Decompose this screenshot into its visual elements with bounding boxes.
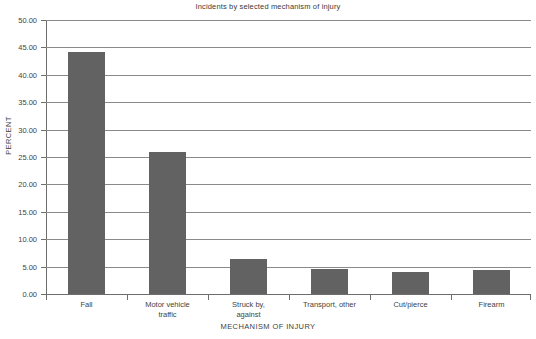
x-category-line: traffic xyxy=(127,310,208,320)
plot-area xyxy=(46,20,531,294)
y-axis-labels: 50.00 45.00 40.00 35.00 30.00 25.00 20.0… xyxy=(0,0,44,339)
x-category-line: Fall xyxy=(46,300,127,310)
x-axis-title: MECHANISM OF INJURY xyxy=(0,322,536,331)
gridline xyxy=(46,157,531,158)
bar-cut-pierce xyxy=(392,272,429,294)
bar-transport-other xyxy=(311,269,348,294)
x-category-label-fall: Fall xyxy=(46,300,127,310)
x-category-line: Firearm xyxy=(451,300,532,310)
y-tick-label: 0.00 xyxy=(0,290,37,299)
y-tick-label: 50.00 xyxy=(0,16,37,25)
chart-title: Incidents by selected mechanism of injur… xyxy=(0,2,536,11)
y-axis-title: PERCENT xyxy=(4,106,13,166)
bar-motor-vehicle-traffic xyxy=(149,152,186,294)
x-category-label-transport-other: Transport, other xyxy=(289,300,370,310)
y-tick-label: 5.00 xyxy=(0,263,37,272)
gridline xyxy=(46,20,531,21)
bar-firearm xyxy=(473,270,510,294)
gridline xyxy=(46,75,531,76)
y-tick-label: 40.00 xyxy=(0,71,37,80)
x-category-label-motor-vehicle-traffic: Motor vehicle traffic xyxy=(127,300,208,319)
x-category-line: against xyxy=(208,310,289,320)
x-category-label-struck-by-against: Struck by, against xyxy=(208,300,289,319)
x-category-line: Motor vehicle xyxy=(127,300,208,310)
gridline xyxy=(46,47,531,48)
gridline xyxy=(46,102,531,103)
chart-container: Incidents by selected mechanism of injur… xyxy=(0,0,536,339)
x-category-label-cut-pierce: Cut/pierce xyxy=(370,300,451,310)
gridline xyxy=(46,212,531,213)
y-tick-label: 15.00 xyxy=(0,208,37,217)
bar-struck-by-against xyxy=(230,259,267,294)
y-tick-label: 45.00 xyxy=(0,43,37,52)
gridline xyxy=(46,130,531,131)
x-category-line: Struck by, xyxy=(208,300,289,310)
gridline xyxy=(46,184,531,185)
bar-fall xyxy=(68,52,105,294)
y-tick-label: 20.00 xyxy=(0,180,37,189)
gridline xyxy=(46,239,531,240)
x-category-line: Cut/pierce xyxy=(370,300,451,310)
x-category-label-firearm: Firearm xyxy=(451,300,532,310)
gridline xyxy=(46,267,531,268)
y-tick-label: 10.00 xyxy=(0,235,37,244)
x-category-line: Transport, other xyxy=(289,300,370,310)
